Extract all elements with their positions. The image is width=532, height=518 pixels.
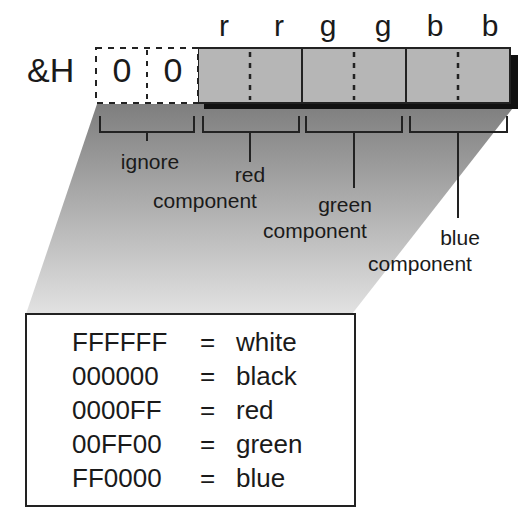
legend-equals: = [200,393,236,427]
byte-letter-r2: r [264,8,294,44]
legend-color-name: black [236,361,297,391]
byte-letter-g1: g [313,8,343,44]
legend-hex: 0000FF [72,393,200,427]
legend-row-red: 0000FF=red [72,393,274,427]
legend-equals: = [200,461,236,495]
label-red-line1: red [195,163,305,187]
byte-letter-b2: b [475,8,505,44]
legend-hex: FFFFFF [72,325,200,359]
legend-row-black: 000000=black [72,359,297,393]
label-blue-line2: component [355,252,485,276]
legend-row-blue: FF0000=blue [72,461,285,495]
legend-row-white: FFFFFF=white [72,325,297,359]
label-ignore: ignore [100,150,200,174]
legend-row-green: 00FF00=green [72,427,303,461]
byte-letter-r1: r [209,8,239,44]
legend-color-name: blue [236,463,285,493]
label-red-line2: component [140,189,270,213]
legend-equals: = [200,359,236,393]
legend-hex: 00FF00 [72,427,200,461]
byte-letter-b1: b [420,8,450,44]
projection-shading [26,104,516,314]
label-green-line1: green [300,193,390,217]
ignore-digit-2: 0 [148,50,198,90]
label-blue-line1: blue [420,226,500,250]
color-legend-box: FFFFFF=white 000000=black 0000FF=red 00F… [25,313,356,507]
label-green-line2: component [250,219,380,243]
hex-prefix: &H [27,50,74,90]
legend-color-name: green [236,429,303,459]
legend-color-name: red [236,395,274,425]
legend-equals: = [200,325,236,359]
legend-hex: FF0000 [72,461,200,495]
legend-equals: = [200,427,236,461]
ignore-digit-1: 0 [97,50,147,90]
legend-hex: 000000 [72,359,200,393]
byte-letter-g2: g [368,8,398,44]
legend-color-name: white [236,327,297,357]
